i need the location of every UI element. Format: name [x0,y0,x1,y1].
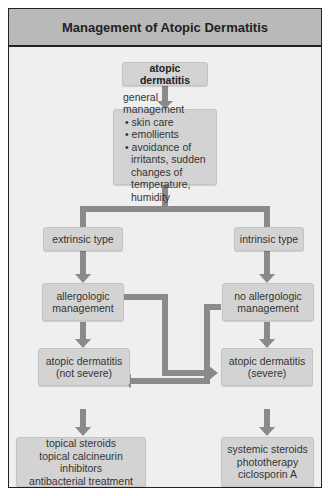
list-item: emollients [123,128,216,141]
node-no-allergologic-management: no allergologic management [222,283,314,321]
connector-general-to-intrinsic [165,209,267,227]
node-extrinsic-type: extrinsic type [43,227,123,251]
general-management-list: skin care emollients avoidance of irrita… [123,116,216,204]
node-treatment-not-severe: topical steroids topical calcineurin inh… [16,437,146,487]
node-general-management: general management skin care emollients … [113,109,217,185]
node-treatment-severe: systemic steroids phototherapy ciclospor… [221,437,314,487]
node-intrinsic-type: intrinsic type [234,227,304,251]
node-ad-not-severe: atopic dermatitis (not severe) [38,348,130,386]
diagram-frame: Management of Atopic Dermatitis [8,8,322,488]
arrow-no-allergologic-to-not-severe [131,307,221,381]
list-item: avoidance of irritants, sudden changes o… [123,141,216,204]
general-management-title: general management [123,91,216,116]
arrow-allergologic-to-severe [121,297,209,373]
node-ad-severe: atopic dermatitis (severe) [221,348,313,386]
list-item: skin care [123,116,216,129]
node-atopic-dermatitis: atopic dermatitis [122,62,208,86]
node-allergologic-management: allergologic management [42,283,124,321]
